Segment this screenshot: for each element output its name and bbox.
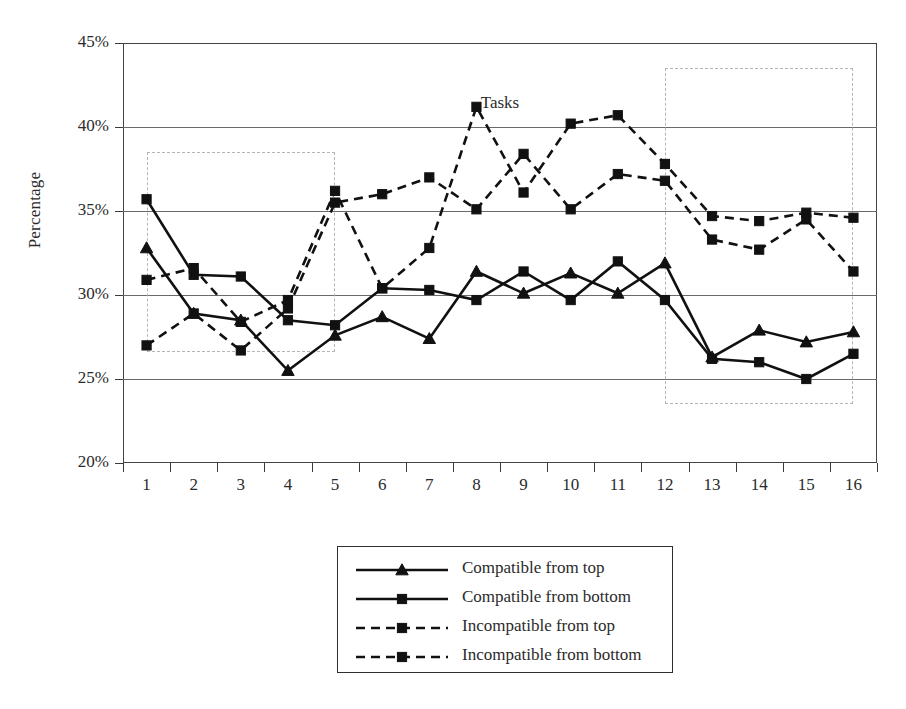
x-axis-tick [217, 463, 218, 472]
x-axis-tick-label: 13 [692, 475, 732, 495]
legend-label: Incompatible from top [462, 616, 615, 636]
chart-figure: Percentage 45%40%35%30%25%20% 1234567891… [0, 0, 906, 709]
y-axis-tick-label: 45% [63, 32, 109, 52]
y-axis-tick [115, 295, 123, 296]
x-axis-tick-label: 2 [174, 475, 214, 495]
y-axis-tick-label: 40% [63, 116, 109, 136]
x-axis-tick [736, 463, 737, 472]
x-axis-tick [641, 463, 642, 472]
x-axis-tick-label: 8 [456, 475, 496, 495]
x-axis-tick-label: 10 [551, 475, 591, 495]
y-axis-tick [115, 211, 123, 212]
plot-area: 45%40%35%30%25%20% 123456789101112131415… [123, 43, 877, 463]
x-axis-tick [547, 463, 548, 472]
y-axis-tick-label: 20% [63, 452, 109, 472]
x-axis-tick [406, 463, 407, 472]
x-axis-tick [500, 463, 501, 472]
solid-line-icon [354, 555, 450, 585]
series-3 [142, 149, 858, 355]
y-axis-tick [115, 379, 123, 380]
x-axis-tick-label: 9 [504, 475, 544, 495]
series-0 [140, 242, 859, 376]
x-axis-tick-label: 15 [786, 475, 826, 495]
x-axis-tick [359, 463, 360, 472]
legend-item[interactable]: Incompatible from top [354, 613, 660, 643]
x-axis-tick [453, 463, 454, 472]
x-axis-tick-label: 3 [221, 475, 261, 495]
y-axis-tick [115, 43, 123, 44]
x-axis-tick [830, 463, 831, 472]
x-axis-title: Tasks [123, 93, 877, 113]
x-axis-tick-label: 5 [315, 475, 355, 495]
x-axis-tick [783, 463, 784, 472]
y-axis-title: Percentage [25, 140, 45, 280]
x-axis-tick-label: 12 [645, 475, 685, 495]
dashed-line-icon [354, 613, 450, 643]
x-axis-tick-label: 11 [598, 475, 638, 495]
y-axis-tick-label: 30% [63, 284, 109, 304]
x-axis-tick-label: 7 [409, 475, 449, 495]
x-axis-tick [123, 463, 124, 472]
solid-line-icon [354, 584, 450, 614]
x-axis-tick [689, 463, 690, 472]
y-axis-tick [115, 127, 123, 128]
y-axis-tick [115, 463, 123, 464]
legend-item[interactable]: Compatible from top [354, 555, 660, 585]
legend-label: Incompatible from bottom [462, 645, 641, 665]
x-axis-tick [312, 463, 313, 472]
x-axis-tick [594, 463, 595, 472]
x-axis-tick [877, 463, 878, 472]
x-axis-tick-label: 16 [833, 475, 873, 495]
legend-label: Compatible from bottom [462, 587, 631, 607]
dashed-line-icon [354, 642, 450, 672]
legend: Compatible from topCompatible from botto… [337, 546, 673, 673]
legend-item[interactable]: Incompatible from bottom [354, 642, 660, 672]
x-axis-tick [170, 463, 171, 472]
series-1 [142, 195, 858, 384]
x-axis-tick [264, 463, 265, 472]
x-axis-tick-label: 4 [268, 475, 308, 495]
legend-item[interactable]: Compatible from bottom [354, 584, 660, 614]
legend-label: Compatible from top [462, 558, 605, 578]
y-axis-tick-label: 35% [63, 200, 109, 220]
y-axis-tick-label: 25% [63, 368, 109, 388]
x-axis-tick-label: 14 [739, 475, 779, 495]
x-axis-tick-label: 6 [362, 475, 402, 495]
series-2 [142, 102, 858, 326]
x-axis-tick-label: 1 [127, 475, 167, 495]
